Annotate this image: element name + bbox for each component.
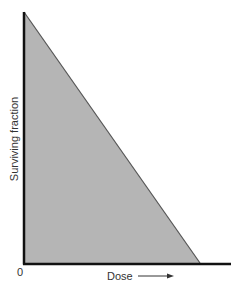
origin-tick-label: 0 <box>17 266 23 278</box>
x-axis-label: Dose <box>107 270 133 282</box>
y-axis-label: Surviving fraction <box>8 97 20 181</box>
x-axis-label-group: Dose <box>107 270 174 282</box>
chart-plot <box>0 0 243 286</box>
right-arrow-icon <box>138 272 174 280</box>
